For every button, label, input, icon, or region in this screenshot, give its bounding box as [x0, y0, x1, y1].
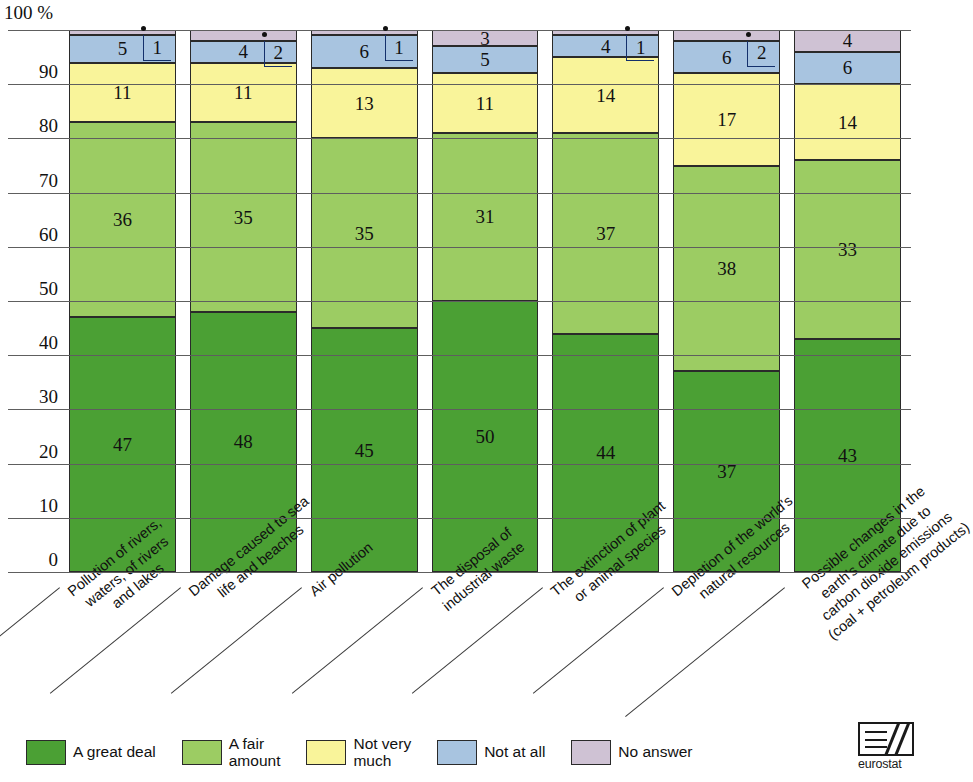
callout-value-label: 1	[636, 37, 646, 59]
segment-value-label: 43	[838, 446, 857, 465]
segment-value-label: 3	[480, 29, 490, 48]
segment-value-label: 5	[118, 39, 128, 58]
segment-value-label: 14	[596, 86, 615, 105]
callout-value-label: 1	[394, 37, 404, 59]
legend-item: A fair amount	[182, 736, 281, 769]
segment-value-label: 37	[596, 224, 615, 243]
segment-value-label: 48	[234, 432, 253, 451]
bar-segment: 37	[553, 133, 658, 334]
y-axis-tick-label: 90	[4, 62, 58, 81]
segment-value-label: 50	[475, 427, 494, 446]
segment-callout: 1	[626, 35, 654, 61]
segment-value-label: 17	[717, 110, 736, 129]
x-label-leader-line	[625, 587, 785, 717]
bar-segment: 6	[795, 52, 900, 85]
gridline	[8, 518, 911, 519]
segment-value-label: 33	[838, 240, 857, 259]
segment-value-label: 6	[843, 58, 853, 77]
segment-value-label: 37	[717, 462, 736, 481]
gridline	[8, 409, 911, 410]
chart-legend: A great dealA fair amountNot very muchNo…	[26, 736, 718, 769]
bar-segment: 45	[312, 328, 417, 572]
segment-value-label: 11	[234, 83, 252, 102]
x-label-leader-line	[0, 587, 60, 698]
segment-value-label: 38	[717, 259, 736, 278]
legend-item: A great deal	[26, 740, 156, 765]
segment-value-label: 4	[601, 37, 611, 56]
y-axis-tick-label: 30	[4, 387, 58, 406]
legend-label: Not at all	[484, 744, 545, 761]
y-axis-tick-label: 10	[4, 495, 58, 514]
segment-callout: 2	[747, 41, 775, 67]
y-axis-tick-label: 60	[4, 224, 58, 243]
bar-segment: 38	[674, 166, 779, 372]
y-axis-tick-label: 40	[4, 333, 58, 352]
y-axis: 9080706050403020100	[0, 0, 58, 600]
legend-label: No answer	[618, 744, 692, 761]
logo-text: eurostat	[858, 757, 916, 771]
y-axis-tick-label: 80	[4, 116, 58, 135]
gridline	[8, 301, 911, 302]
bar-segment: 35	[312, 138, 417, 328]
x-label-leader-line	[533, 587, 664, 694]
legend-swatch	[182, 740, 222, 765]
eurostat-logo: eurostat	[858, 722, 916, 771]
bar-segment: 5	[433, 46, 538, 73]
x-label-leader-line	[412, 587, 543, 694]
segment-value-label: 44	[596, 443, 615, 462]
gridline	[8, 193, 911, 194]
y-axis-tick-label: 50	[4, 279, 58, 298]
segment-value-label: 6	[359, 42, 369, 61]
bar-segment: 2	[674, 30, 779, 41]
legend-swatch	[437, 740, 477, 765]
bar-segment: 11	[191, 63, 296, 123]
segment-value-label: 6	[722, 48, 732, 67]
bar-segment: 11	[70, 63, 175, 123]
gridline	[8, 84, 911, 85]
gridline	[8, 138, 911, 139]
segment-value-label: 35	[355, 224, 374, 243]
y-axis-tick-label: 70	[4, 170, 58, 189]
gridline	[8, 464, 911, 465]
gridline	[8, 247, 911, 248]
bar-segment: 3	[433, 30, 538, 46]
segment-value-label: 36	[113, 210, 132, 229]
bar-segment: 36	[70, 122, 175, 317]
segment-value-label: 4	[239, 42, 249, 61]
legend-item: No answer	[571, 740, 692, 765]
y-axis-tick-label: 20	[4, 441, 58, 460]
x-label-leader-line	[291, 587, 422, 694]
bar-segment: 14	[553, 57, 658, 133]
bar-segment: 4	[795, 30, 900, 52]
legend-item: Not very much	[306, 736, 411, 769]
segment-value-label: 11	[113, 83, 131, 102]
callout-value-label: 2	[273, 42, 283, 64]
gridline	[8, 572, 911, 573]
segment-value-label: 45	[355, 441, 374, 460]
bar-segment: 33	[795, 160, 900, 339]
legend-swatch	[26, 740, 66, 765]
segment-value-label: 4	[843, 31, 853, 50]
bar-segment: 13	[312, 68, 417, 138]
segment-callout: 2	[264, 41, 292, 67]
bar-segment: 17	[674, 73, 779, 165]
segment-value-label: 47	[113, 435, 132, 454]
bar-segment: 2	[191, 30, 296, 41]
legend-label: A fair amount	[229, 736, 281, 769]
legend-item: Not at all	[437, 740, 545, 765]
segment-value-label: 14	[838, 113, 857, 132]
legend-label: A great deal	[73, 744, 156, 761]
callout-value-label: 1	[153, 37, 163, 59]
y-axis-tick-label: 0	[4, 550, 58, 569]
bar-segment: 11	[433, 73, 538, 133]
x-label-leader-line	[171, 587, 302, 694]
legend-swatch	[571, 740, 611, 765]
gridline	[8, 355, 911, 356]
bar-segment: 50	[433, 301, 538, 572]
segment-callout: 1	[143, 35, 171, 61]
legend-swatch	[306, 740, 346, 765]
bar-segment: 14	[795, 84, 900, 160]
segment-value-label: 35	[234, 208, 253, 227]
bar-segment: 31	[433, 133, 538, 301]
